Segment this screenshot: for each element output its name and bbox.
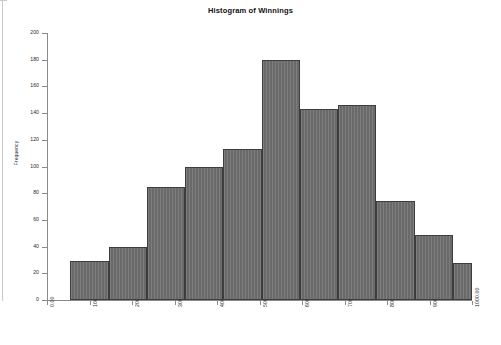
x-axis-tick <box>175 301 176 305</box>
histogram-bar <box>338 105 376 300</box>
y-axis-tick-label-wrap: 140 <box>8 110 39 116</box>
histogram-plot-area <box>47 33 472 300</box>
page-border-top <box>0 0 7 1</box>
y-axis-tick-label: 40 <box>13 244 39 249</box>
y-axis-tick-label-wrap: 0 <box>8 297 39 303</box>
y-axis-tick-label: 160 <box>13 83 39 88</box>
histogram-bar <box>147 187 185 300</box>
y-axis-tick-label-wrap: 60 <box>8 217 39 223</box>
y-axis-tick-label: 0 <box>13 297 39 302</box>
page-title: Histogram of Winnings <box>0 6 501 15</box>
histogram-bar <box>70 261 108 300</box>
y-axis-tick-label: 80 <box>13 190 39 195</box>
x-axis-tick <box>132 301 133 305</box>
y-axis-tick-label-wrap: 80 <box>8 190 39 196</box>
histogram-bar <box>185 167 223 301</box>
x-axis-tick <box>387 301 388 305</box>
x-axis-tick <box>260 301 261 305</box>
y-axis-tick-label-wrap: 120 <box>8 137 39 143</box>
histogram-bar <box>109 247 147 300</box>
y-axis-tick-label: 120 <box>13 137 39 142</box>
histogram-bar <box>223 149 261 300</box>
histogram-bar <box>453 263 472 300</box>
histogram-bar <box>415 235 453 300</box>
y-axis-tick-label: 20 <box>13 270 39 275</box>
y-axis-tick-label-wrap: 100 <box>8 164 39 170</box>
y-axis-tick-label: 60 <box>13 217 39 222</box>
histogram-bar <box>376 201 414 300</box>
y-axis-tick-label-wrap: 180 <box>8 57 39 63</box>
x-axis-tick <box>90 301 91 305</box>
page-border-left <box>2 0 3 301</box>
histogram-bar <box>262 60 300 300</box>
x-axis-tick <box>345 301 346 305</box>
x-axis-tick <box>472 301 473 305</box>
y-axis-tick-label-wrap: 20 <box>8 270 39 276</box>
y-axis-tick-label: 200 <box>13 30 39 35</box>
y-axis-tick-label-wrap: 160 <box>8 83 39 89</box>
x-axis-tick <box>302 301 303 305</box>
histogram-bar <box>300 109 338 300</box>
y-axis-tick-label: 100 <box>13 164 39 169</box>
x-axis-tick-label: 1000.00 <box>474 267 480 307</box>
y-axis-title: Frequency <box>13 123 19 183</box>
y-axis-tick-label: 140 <box>13 110 39 115</box>
x-axis-tick <box>217 301 218 305</box>
y-axis-tick-label-wrap: 40 <box>8 244 39 250</box>
x-axis-tick <box>430 301 431 305</box>
x-axis-tick <box>47 301 48 305</box>
y-axis-tick-label: 180 <box>13 57 39 62</box>
y-axis-tick-label-wrap: 200 <box>8 30 39 36</box>
